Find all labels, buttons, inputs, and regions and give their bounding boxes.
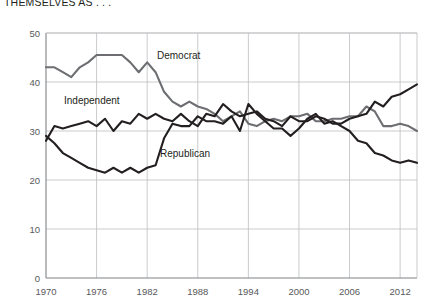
y-tick-label: 30 (29, 126, 40, 137)
y-tick-label: 20 (29, 175, 40, 186)
series-line-democrat (46, 55, 417, 131)
x-tick-label: 2012 (390, 286, 411, 297)
line-chart-plot: 01020304050 1970197619821988199420002006… (0, 0, 424, 308)
y-tick-label: 40 (29, 77, 40, 88)
axis-lines (46, 33, 417, 278)
gridlines (46, 33, 417, 278)
x-tick-label: 1994 (238, 286, 259, 297)
x-tick-label: 1988 (187, 286, 208, 297)
x-tick-label: 1982 (137, 286, 158, 297)
x-axis-tick-labels: 19701976198219881994200020062012 (35, 286, 410, 297)
x-tick-label: 1976 (86, 286, 107, 297)
y-tick-label: 0 (35, 273, 40, 284)
y-tick-label: 50 (29, 28, 40, 39)
data-series-lines (46, 55, 417, 173)
chart-figure: PERCENTAGE OF AMERICANS WHO IDENTIFY THE… (0, 0, 424, 308)
x-tick-label: 2006 (339, 286, 360, 297)
y-axis-tick-labels: 01020304050 (29, 28, 40, 284)
x-tick-label: 2000 (288, 286, 309, 297)
x-tick-label: 1970 (35, 286, 56, 297)
y-tick-label: 10 (29, 224, 40, 235)
